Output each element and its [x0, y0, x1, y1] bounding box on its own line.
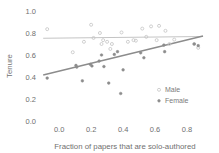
- x-tick-label: 0.0: [54, 125, 64, 134]
- legend-marker-female: [158, 99, 161, 102]
- chart-canvas: 0.00.20.40.60.81.0 0.00.20.40.60.8 Tenur…: [0, 0, 219, 153]
- data-point: [75, 66, 78, 69]
- x-tick-label: 0.4: [118, 125, 128, 134]
- x-tick-label: 0.6: [150, 125, 160, 134]
- data-point: [163, 50, 166, 53]
- data-point: [163, 44, 166, 47]
- x-tick-label: 0.2: [86, 125, 96, 134]
- data-point: [103, 65, 106, 68]
- data-point: [139, 51, 142, 54]
- data-point: [193, 43, 196, 46]
- y-tick-label: 0.0: [26, 117, 36, 126]
- data-point: [119, 92, 122, 95]
- y-tick-label: 0.8: [26, 29, 36, 38]
- y-axis-title: Tenure: [5, 54, 14, 78]
- data-point: [91, 65, 94, 68]
- y-tick-label: 0.2: [26, 95, 36, 104]
- legend-label-female: Female: [165, 97, 188, 104]
- data-point: [113, 53, 116, 56]
- data-point: [81, 80, 84, 83]
- data-point: [122, 69, 125, 72]
- data-point: [98, 60, 101, 63]
- legend-label-male: Male: [165, 86, 180, 93]
- y-tick-label: 1.0: [26, 7, 36, 16]
- x-axis-title: Fraction of papers that are solo-authore…: [54, 142, 195, 151]
- x-tick-label: 0.8: [182, 125, 192, 134]
- y-tick-label: 0.4: [26, 73, 36, 82]
- data-point: [143, 56, 146, 59]
- y-tick-label: 0.6: [26, 51, 36, 60]
- data-point: [100, 54, 103, 57]
- data-point: [197, 44, 200, 47]
- data-point: [46, 77, 49, 80]
- data-point: [107, 82, 110, 85]
- data-point: [116, 50, 119, 53]
- scatter-chart: 0.00.20.40.60.81.0 0.00.20.40.60.8 Tenur…: [0, 0, 219, 153]
